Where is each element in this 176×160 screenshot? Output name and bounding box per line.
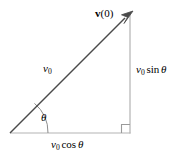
magnitude-subscript: 0 <box>48 67 52 76</box>
right-angle-marker <box>122 125 131 134</box>
vector-v-of-zero-label: v(0) <box>95 8 113 19</box>
vertical-component-subscript: 0 <box>141 68 145 77</box>
vertical-component-label: v0sinθ <box>136 64 166 77</box>
cosine-function-name: cos <box>61 138 76 150</box>
magnitude-v0-label: v0 <box>43 63 52 76</box>
velocity-vector-diagram: v(0) v0 v0sinθ v0cosθ θ <box>0 0 176 160</box>
horizontal-component-subscript: 0 <box>56 143 60 152</box>
angle-theta-label: θ <box>41 112 46 123</box>
velocity-vector-arrowhead <box>122 11 134 24</box>
velocity-vector-shaft <box>10 18 125 133</box>
diagram-canvas <box>0 0 176 160</box>
sine-function-name: sin <box>146 63 159 75</box>
vertical-component-angle: θ <box>161 63 166 75</box>
horizontal-component-angle: θ <box>78 138 83 150</box>
vector-argument: (0) <box>101 7 114 19</box>
horizontal-component-label: v0cosθ <box>51 139 83 152</box>
